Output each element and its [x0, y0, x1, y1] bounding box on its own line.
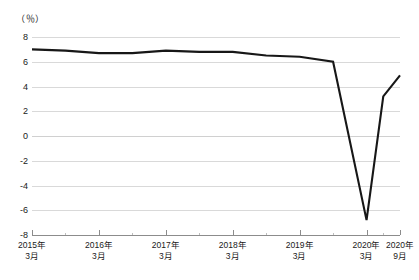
x-tick-label-year: 2015年: [18, 240, 46, 251]
y-tick-label: 4: [23, 82, 28, 92]
x-tick-label-month: 9月: [386, 251, 414, 262]
x-tick-label-year: 2017年: [152, 240, 180, 251]
series-line-gdp: [32, 49, 400, 220]
x-tick-label-year: 2018年: [219, 240, 247, 251]
y-tick-label: 8: [23, 32, 28, 42]
x-tick-label: 2017年3月: [152, 240, 180, 262]
series-layer: [32, 37, 400, 235]
x-tick-label-month: 3月: [152, 251, 180, 262]
chart-title: [0, 0, 419, 4]
x-tick-major: [400, 230, 401, 235]
y-tick-label: -4: [20, 181, 28, 191]
x-tick-label-year: 2020年: [386, 240, 414, 251]
gridline--8: [32, 235, 400, 236]
x-tick-label-month: 3月: [85, 251, 113, 262]
x-tick-label-year: 2020年: [353, 240, 381, 251]
y-tick-label: 0: [23, 131, 28, 141]
x-tick-label-year: 2016年: [85, 240, 113, 251]
y-axis-unit-label: （％）: [16, 12, 45, 25]
plot-area: 86420-2-4-6-8 2015年3月2016年3月2017年3月2018年…: [32, 37, 400, 235]
x-tick-label-month: 3月: [286, 251, 314, 262]
y-tick-label: 2: [23, 106, 28, 116]
x-tick-label: 2018年3月: [219, 240, 247, 262]
y-tick-label: 6: [23, 57, 28, 67]
y-tick-label: -2: [20, 156, 28, 166]
gdp-growth-line-chart: （％） 86420-2-4-6-8 2015年3月2016年3月2017年3月2…: [0, 0, 419, 280]
x-tick-label: 2020年9月: [386, 240, 414, 262]
y-tick-label: -8: [20, 230, 28, 240]
y-tick-label: -6: [20, 205, 28, 215]
x-tick-label: 2020年3月: [353, 240, 381, 262]
x-tick-label-month: 3月: [18, 251, 46, 262]
x-tick-label: 2015年3月: [18, 240, 46, 262]
x-tick-label: 2019年3月: [286, 240, 314, 262]
x-tick-label-year: 2019年: [286, 240, 314, 251]
x-tick-label: 2016年3月: [85, 240, 113, 262]
x-tick-label-month: 3月: [219, 251, 247, 262]
x-tick-label-month: 3月: [353, 251, 381, 262]
